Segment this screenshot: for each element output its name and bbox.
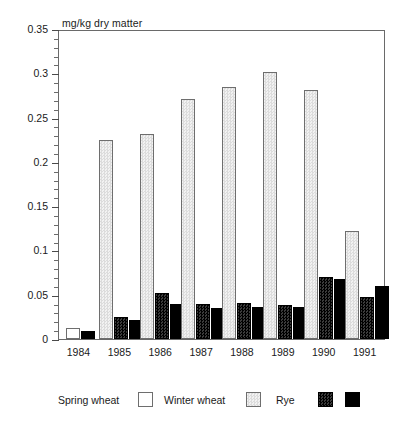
- y-axis-minor-tick: [54, 110, 59, 111]
- bar: [345, 231, 359, 339]
- y-axis-tick-label: 0: [6, 333, 48, 345]
- y-axis-minor-tick: [54, 331, 59, 332]
- y-axis-title: mg/kg dry matter: [62, 17, 142, 29]
- y-axis-tick: [52, 30, 59, 31]
- legend-label: Spring wheat: [58, 394, 119, 406]
- bar: [278, 305, 292, 339]
- y-axis-tick-label: 0.2: [6, 156, 48, 168]
- y-axis-minor-tick: [54, 234, 59, 235]
- legend-label: Winter wheat: [164, 394, 225, 406]
- y-axis-minor-tick: [54, 172, 59, 173]
- x-axis-tick-label: 1989: [262, 346, 303, 358]
- bar: [237, 303, 251, 339]
- x-axis-tick-label: 1990: [303, 346, 344, 358]
- y-axis-minor-tick: [54, 181, 59, 182]
- bar: [360, 297, 374, 340]
- y-axis-minor-tick: [54, 136, 59, 137]
- x-axis-tick-label: 1988: [222, 346, 263, 358]
- legend-swatch: [345, 392, 360, 407]
- y-axis-minor-tick: [54, 287, 59, 288]
- bar: [155, 293, 169, 339]
- y-axis-tick: [52, 163, 59, 164]
- y-axis-tick: [52, 340, 59, 341]
- bar: [181, 99, 195, 339]
- x-axis-tick-label: 1984: [58, 346, 99, 358]
- bar: [304, 90, 318, 339]
- y-axis-minor-tick: [54, 92, 59, 93]
- y-axis-tick-label: 0.1: [6, 244, 48, 256]
- bar: [81, 331, 95, 339]
- y-axis-tick: [52, 119, 59, 120]
- y-axis-tick: [52, 207, 59, 208]
- bar: [319, 277, 333, 339]
- y-axis-minor-tick: [54, 260, 59, 261]
- y-axis-minor-tick: [54, 243, 59, 244]
- y-axis-tick-label: 0.3: [6, 67, 48, 79]
- x-axis-tick-label: 1986: [140, 346, 181, 358]
- bar: [222, 87, 236, 339]
- y-axis-tick-label: 0.25: [6, 112, 48, 124]
- bar-chart: mg/kg dry matter 00.050.10.150.20.250.30…: [0, 0, 395, 430]
- y-axis-minor-tick: [54, 154, 59, 155]
- y-axis-minor-tick: [54, 225, 59, 226]
- bar: [263, 72, 277, 339]
- y-axis-minor-tick: [54, 216, 59, 217]
- bar: [375, 286, 389, 339]
- bar: [140, 134, 154, 339]
- y-axis-minor-tick: [54, 127, 59, 128]
- x-axis-tick-label: 1987: [181, 346, 222, 358]
- y-axis-tick: [52, 74, 59, 75]
- y-axis-tick-label: 0.35: [6, 23, 48, 35]
- legend-swatch: [246, 392, 261, 407]
- y-axis-minor-tick: [54, 269, 59, 270]
- y-axis-minor-tick: [54, 198, 59, 199]
- y-axis-tick: [52, 296, 59, 297]
- y-axis-minor-tick: [54, 278, 59, 279]
- y-axis-tick-label: 0.15: [6, 200, 48, 212]
- y-axis-minor-tick: [54, 189, 59, 190]
- chart-legend: Spring wheatWinter wheatRye: [0, 392, 395, 416]
- y-axis-minor-tick: [54, 322, 59, 323]
- y-axis-minor-tick: [54, 65, 59, 66]
- legend-label: Rye: [276, 394, 295, 406]
- bars-layer: [59, 31, 384, 339]
- y-axis-tick-label: 0.05: [6, 289, 48, 301]
- x-axis-tick-label: 1985: [99, 346, 140, 358]
- plot-area: [58, 30, 385, 340]
- y-axis-minor-tick: [54, 313, 59, 314]
- y-axis-tick: [52, 251, 59, 252]
- bar: [114, 317, 128, 339]
- bar: [196, 304, 210, 339]
- legend-swatch: [138, 392, 153, 407]
- y-axis-minor-tick: [54, 83, 59, 84]
- y-axis-minor-tick: [54, 57, 59, 58]
- y-axis-minor-tick: [54, 39, 59, 40]
- y-axis-minor-tick: [54, 145, 59, 146]
- x-axis-tick-label: 1991: [344, 346, 385, 358]
- y-axis-minor-tick: [54, 101, 59, 102]
- bar: [66, 328, 80, 340]
- bar: [99, 140, 113, 339]
- y-axis-minor-tick: [54, 305, 59, 306]
- legend-swatch: [318, 392, 333, 407]
- y-axis-minor-tick: [54, 48, 59, 49]
